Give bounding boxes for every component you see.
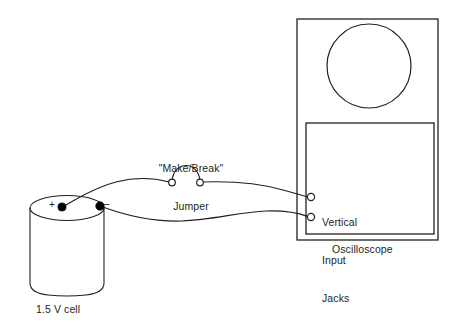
vertical-input-jacks-label: Vertical Input Jacks bbox=[322, 190, 357, 331]
oscilloscope-outer-box bbox=[297, 19, 438, 240]
oscilloscope-group bbox=[297, 19, 438, 240]
jacks-label-line2: Input bbox=[322, 254, 357, 267]
jacks-label-line1: Vertical bbox=[322, 216, 357, 229]
jacks-label-line3: Jacks bbox=[322, 292, 357, 305]
oscilloscope-label: Oscilloscope bbox=[332, 243, 393, 256]
cell-negative-terminal-dot bbox=[96, 202, 105, 211]
cell-label: 1.5 V cell bbox=[36, 303, 80, 316]
jumper-label: "Make/Break" Jumper bbox=[148, 136, 234, 238]
vertical-input-jack-top[interactable] bbox=[307, 193, 314, 200]
crt-screen-circle bbox=[327, 24, 411, 108]
cell-body-outline bbox=[30, 208, 104, 296]
jumper-label-line1: "Make/Break" bbox=[148, 162, 234, 175]
cell-group bbox=[30, 196, 104, 297]
cell-top-ellipse bbox=[30, 196, 104, 221]
positive-terminal-sign: + bbox=[49, 199, 55, 210]
vertical-input-jacks-group[interactable] bbox=[307, 193, 314, 220]
jumper-label-line2: Jumper bbox=[148, 200, 234, 213]
vertical-input-jack-bottom[interactable] bbox=[307, 213, 314, 220]
circuit-diagram: + – 1.5 V cell "Make/Break" Jumper Verti… bbox=[0, 0, 466, 332]
cell-positive-terminal-dot bbox=[58, 203, 66, 211]
negative-terminal-sign: – bbox=[104, 198, 110, 209]
